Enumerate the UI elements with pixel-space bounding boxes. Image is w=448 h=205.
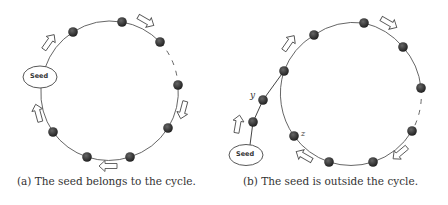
- cycle-edge: [284, 22, 421, 88]
- node: [416, 83, 426, 93]
- arrow-icon: [39, 31, 58, 52]
- panel-a: [23, 12, 191, 172]
- node: [279, 66, 289, 76]
- node: [125, 152, 135, 162]
- cycle-nodes: [248, 18, 426, 167]
- arrow-icon: [99, 161, 117, 172]
- cycle-edge: [45, 21, 160, 68]
- node: [68, 27, 78, 37]
- node: [309, 30, 319, 40]
- node-label-z: z: [301, 129, 305, 138]
- tail-node: [248, 117, 258, 127]
- cycle-edge-dashed: [160, 42, 178, 85]
- node: [407, 126, 417, 136]
- cycle-edge: [41, 85, 178, 160]
- cycle-edge-dashed: [412, 88, 421, 131]
- cycle-nodes: [48, 17, 183, 162]
- seed-label-b: Seed: [236, 150, 254, 158]
- node: [155, 37, 165, 47]
- node: [324, 157, 334, 167]
- node: [117, 17, 127, 27]
- node: [289, 131, 299, 141]
- seed-label-a: Seed: [30, 72, 48, 80]
- caption-b: (b) The seed is outside the cycle.: [243, 175, 418, 187]
- tail-node: [258, 95, 268, 105]
- tail-edge: [250, 71, 284, 145]
- node: [163, 123, 173, 133]
- arrow-icon: [293, 147, 314, 166]
- node: [368, 157, 378, 167]
- node: [398, 42, 408, 52]
- direction-arrows: [30, 12, 190, 172]
- node: [48, 127, 58, 137]
- node: [173, 80, 183, 90]
- arrow-icon: [231, 114, 245, 134]
- panel-b: [229, 14, 426, 167]
- node-label-y: y: [250, 90, 255, 100]
- node: [359, 18, 369, 28]
- caption-a: (a) The seed belongs to the cycle.: [17, 175, 196, 187]
- node: [82, 152, 92, 162]
- direction-arrows: [231, 14, 410, 166]
